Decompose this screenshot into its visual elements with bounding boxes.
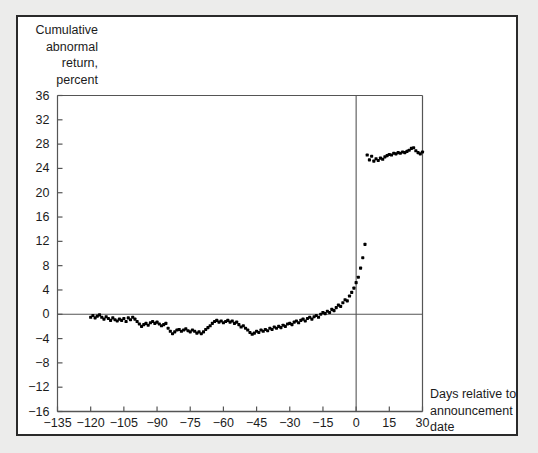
y-tick-label: −12 <box>16 381 50 393</box>
y-tick-label: 20 <box>16 187 50 199</box>
data-points-group <box>89 146 424 336</box>
data-point <box>370 155 373 158</box>
y-tick-label: 28 <box>16 138 50 150</box>
data-point <box>368 158 371 161</box>
y-tick-label: 12 <box>16 235 50 247</box>
data-point <box>352 287 355 290</box>
plot-area <box>0 0 538 453</box>
data-point <box>357 276 360 279</box>
data-point <box>363 243 366 246</box>
data-point <box>167 327 170 330</box>
y-tick-label: 0 <box>16 308 50 320</box>
y-tick-label: 24 <box>16 162 50 174</box>
data-point <box>125 320 128 323</box>
data-point <box>359 267 362 270</box>
axes-group <box>58 96 423 412</box>
data-point <box>355 281 358 284</box>
y-tick-label: 8 <box>16 260 50 272</box>
data-point <box>346 299 349 302</box>
data-point <box>366 154 369 157</box>
data-point <box>164 322 167 325</box>
y-tick-label: 36 <box>16 90 50 102</box>
reference-lines-group <box>58 96 423 412</box>
data-point <box>412 146 415 149</box>
y-tick-label: 16 <box>16 211 50 223</box>
data-point <box>341 301 344 304</box>
data-point <box>348 294 351 297</box>
data-point <box>317 316 320 319</box>
data-point <box>339 305 342 308</box>
chart-root: Cumulative abnormal return, percent Days… <box>0 0 538 453</box>
data-point <box>361 256 364 259</box>
data-point <box>350 291 353 294</box>
y-tick-label: 32 <box>16 114 50 126</box>
data-point <box>122 317 125 320</box>
x-tick-label: 30 <box>401 417 445 429</box>
data-point <box>332 309 335 312</box>
data-point <box>328 311 331 314</box>
data-point <box>421 150 424 153</box>
y-tick-label: 4 <box>16 284 50 296</box>
y-tick-label: −4 <box>16 333 50 345</box>
y-tick-label: −8 <box>16 357 50 369</box>
